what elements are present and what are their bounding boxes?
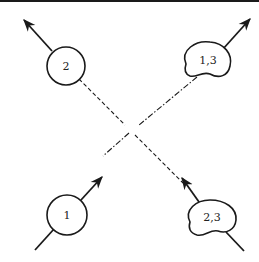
incoming-line <box>35 229 54 250</box>
incoming-line <box>226 232 244 251</box>
arrow-icon <box>24 20 52 51</box>
arrow-icon <box>182 178 199 202</box>
node-2: 2 <box>24 20 85 85</box>
connector-n2-n23 <box>79 79 183 183</box>
arrow-icon <box>81 177 102 200</box>
scattering-diagram: 2 1,3 1 2,3 <box>0 0 259 262</box>
node-label: 1 <box>64 209 71 222</box>
node-label: 2 <box>63 60 70 73</box>
arrow-icon <box>223 19 250 49</box>
node-1-3: 1,3 <box>185 19 250 76</box>
node-1: 1 <box>35 177 102 250</box>
node-2-3: 2,3 <box>182 178 244 251</box>
node-label: 1,3 <box>199 54 217 67</box>
node-label: 2,3 <box>203 211 221 224</box>
